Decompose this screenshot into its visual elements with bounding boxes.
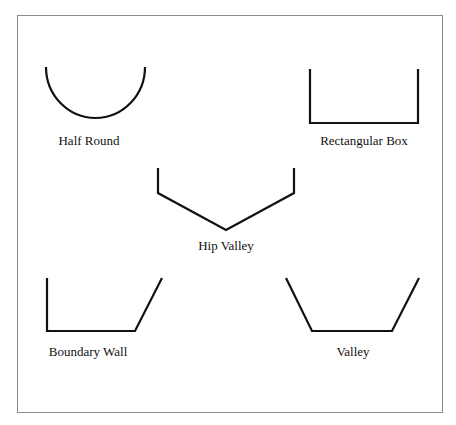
hip-valley-label: Hip Valley: [198, 238, 254, 253]
gutter-profiles-diagram: Half Round Rectangular Box Hip Valley Bo…: [0, 0, 456, 425]
half-round-label: Half Round: [58, 133, 120, 148]
rectangular-box-label: Rectangular Box: [320, 133, 408, 148]
boundary-wall-label: Boundary Wall: [49, 344, 128, 359]
valley-label: Valley: [336, 344, 370, 359]
